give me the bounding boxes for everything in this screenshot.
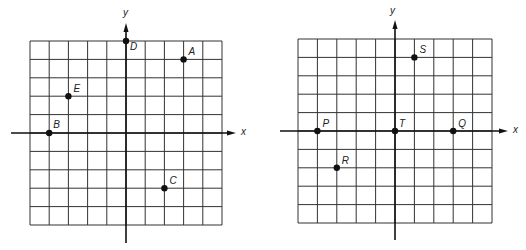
y-axis-label: y (122, 7, 129, 18)
x-axis-arrow-icon (227, 131, 236, 136)
point-marker-icon (334, 165, 340, 171)
point-a: A (180, 46, 195, 62)
point-marker-icon (161, 185, 167, 191)
point-label: C (169, 175, 177, 186)
point-marker-icon (314, 128, 320, 134)
point-label: Q (458, 118, 466, 129)
point-label: T (399, 118, 406, 129)
point-marker-icon (392, 128, 398, 134)
point-r: R (334, 155, 349, 171)
x-axis-label: x (512, 124, 519, 135)
point-s: S (411, 44, 426, 60)
right-coordinate-plane: xyPQRST (280, 5, 519, 240)
point-label: R (342, 155, 349, 166)
point-label: E (73, 83, 80, 94)
x-axis-arrow-icon (499, 129, 508, 134)
point-marker-icon (123, 38, 129, 44)
point-label: A (188, 46, 196, 57)
x-axis-label: x (240, 126, 247, 137)
point-label: S (419, 44, 426, 55)
point-label: D (130, 41, 137, 52)
point-marker-icon (180, 56, 186, 62)
y-axis-arrow-icon (393, 20, 398, 29)
y-axis-arrow-icon (124, 23, 129, 32)
point-marker-icon (411, 54, 417, 60)
coordinate-planes-figure: xyABCDE xyPQRST (0, 0, 526, 250)
point-c: C (161, 175, 177, 191)
point-e: E (65, 83, 80, 99)
point-label: P (322, 118, 329, 129)
left-coordinate-plane: xyABCDE (11, 7, 247, 243)
point-label: B (53, 119, 60, 130)
point-d: D (123, 38, 137, 52)
point-marker-icon (46, 130, 52, 136)
point-marker-icon (65, 93, 71, 99)
y-axis-label: y (389, 5, 396, 16)
point-marker-icon (450, 128, 456, 134)
